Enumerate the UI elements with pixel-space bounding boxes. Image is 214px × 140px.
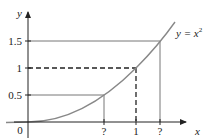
curve-label: y = x2	[175, 26, 203, 39]
y-axis-label: y	[16, 7, 22, 19]
curve-label-base: y = x	[175, 27, 199, 39]
y-tick-1: 1	[17, 62, 23, 74]
parabola-curve	[6, 22, 175, 123]
x-tick-unknown-1: ?	[102, 125, 107, 137]
origin-label: 0	[17, 124, 23, 136]
ticks	[25, 41, 160, 125]
guide-lines	[28, 41, 160, 122]
x-tick-unknown-2: ?	[158, 125, 163, 137]
x-axis-label: x	[194, 125, 200, 137]
parabola-diagram: y x 0.5 1 1.5 0 ? 1 ? y = x2	[0, 0, 214, 140]
x-tick-1: 1	[133, 125, 139, 137]
y-tick-1.5: 1.5	[8, 35, 22, 47]
y-tick-0.5: 0.5	[8, 89, 22, 101]
curve-label-exponent: 2	[199, 26, 203, 34]
